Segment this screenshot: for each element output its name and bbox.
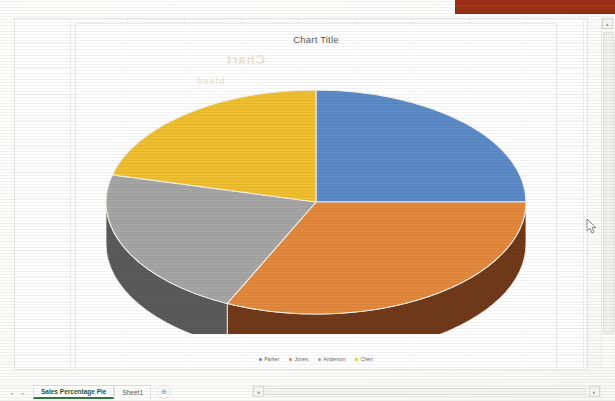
scroll-right-button[interactable]: ▸ bbox=[589, 386, 600, 397]
sheet-tab-sales-percentage-pie[interactable]: Sales Percentage Pie bbox=[33, 385, 114, 399]
legend-item-anderson[interactable]: Anderson bbox=[318, 356, 345, 362]
pie-slice-parker[interactable] bbox=[316, 90, 526, 202]
legend-item-jones[interactable]: Jones bbox=[289, 356, 308, 362]
legend-swatch-chen bbox=[355, 358, 358, 361]
sheet-tab-bar[interactable]: ◂ ▸ Sales Percentage Pie Sheet1 ⊕ bbox=[0, 383, 260, 399]
legend-item-chen[interactable]: Chen bbox=[355, 356, 372, 362]
legend-swatch-parker bbox=[259, 358, 262, 361]
mouse-cursor-arrow-pointer-icon bbox=[586, 219, 597, 234]
legend-label-parker: Parker bbox=[264, 356, 279, 362]
window-title-bar-accent bbox=[455, 0, 615, 14]
legend-swatch-jones bbox=[289, 358, 292, 361]
legend-label-chen: Chen bbox=[360, 356, 372, 362]
worksheet-grid-area[interactable]: Chart Title Chart bleed Parker bbox=[14, 18, 588, 370]
legend-swatch-anderson bbox=[318, 358, 321, 361]
legend-label-anderson: Anderson bbox=[323, 356, 345, 362]
legend-item-parker[interactable]: Parker bbox=[259, 356, 279, 362]
chart-legend[interactable]: Parker Jones Anderson Chen bbox=[76, 356, 556, 362]
sheet-nav-prev-icon[interactable]: ◂ bbox=[10, 390, 13, 396]
spreadsheet-application: Chart Title Chart bleed Parker bbox=[0, 14, 615, 401]
pie-top-faces bbox=[106, 90, 526, 314]
pie-chart-plot-area[interactable] bbox=[90, 52, 542, 334]
sheet-nav-arrows[interactable]: ◂ ▸ bbox=[0, 390, 33, 399]
chart-title[interactable]: Chart Title bbox=[76, 34, 556, 45]
sheet-nav-next-icon[interactable]: ▸ bbox=[22, 390, 25, 396]
add-sheet-icon[interactable]: ⊕ bbox=[157, 385, 171, 399]
sheet-tab-sheet1[interactable]: Sheet1 bbox=[114, 385, 151, 399]
vertical-scrollbar-thumb[interactable] bbox=[603, 32, 614, 334]
scroll-up-button[interactable]: ▴ bbox=[602, 18, 613, 29]
horizontal-scrollbar-thumb[interactable] bbox=[265, 388, 586, 395]
vertical-scrollbar[interactable]: ▴ bbox=[601, 18, 614, 366]
horizontal-scrollbar[interactable]: ◂ ▸ bbox=[252, 386, 601, 397]
chart-object[interactable]: Chart Title Chart bleed Parker bbox=[75, 23, 557, 370]
legend-label-jones: Jones bbox=[294, 356, 308, 362]
